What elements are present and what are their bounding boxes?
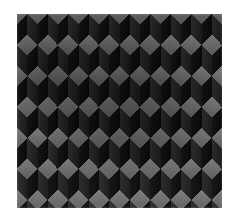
cube-tiling-svg (17, 14, 222, 208)
cube-tiling-artwork (17, 14, 222, 208)
cube-lattice (17, 14, 222, 208)
page-canvas (0, 0, 237, 220)
